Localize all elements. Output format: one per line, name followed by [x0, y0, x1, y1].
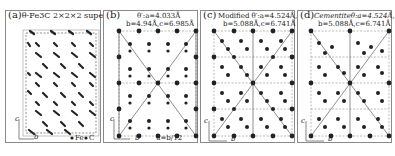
axis-c-label: c [204, 118, 208, 125]
legend-c-label: C [89, 135, 94, 142]
cementite-structure-diagram [298, 11, 393, 144]
axis-c-label: c [110, 116, 114, 123]
axis-b-label: b [135, 135, 139, 142]
panel-c: (c) Modified θ′:a=4.524Å, b=5.088Å,c=6.7… [200, 10, 295, 143]
panel-d: (d) Cementiteθ:a=4.524Å, b=5.088Å,c=6.74… [297, 10, 392, 143]
axis-b-label: b [34, 134, 38, 141]
theta-prime-structure-diagram [104, 11, 199, 144]
panel-b: (b) θ′:a=4.033Å b=4.94Å,c=6.985Å [103, 10, 198, 143]
axis-b-label: b [231, 136, 235, 143]
axis-c-label: c [15, 116, 19, 123]
panel-a: (a)θ-Fe3C 2×2×2 supercell c b Fe [5, 10, 101, 143]
axis-c-label: c [301, 118, 305, 125]
shift-annotation: u=b/12 [156, 135, 182, 142]
supercell-structure-diagram [6, 11, 102, 144]
modified-theta-prime-structure-diagram [201, 11, 296, 144]
axis-b-label: b [328, 136, 332, 143]
legend-fe-label: Fe [75, 135, 84, 142]
